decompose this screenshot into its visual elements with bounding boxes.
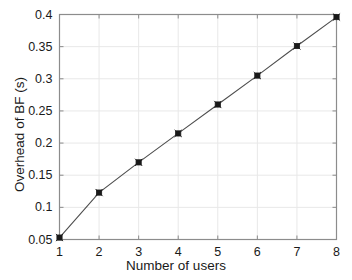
x-tick-label: 4 <box>175 245 182 259</box>
y-tick-label: 0.4 <box>0 8 53 22</box>
y-tick-label: 0.35 <box>0 40 53 54</box>
x-tick-label: 7 <box>293 245 300 259</box>
y-axis-label: Overhead of BF (s) <box>12 55 27 215</box>
x-axis-label: Number of users <box>0 258 352 273</box>
y-tick-label: 0.05 <box>0 233 53 247</box>
x-tick-label: 8 <box>333 245 340 259</box>
x-tick-label: 2 <box>96 245 103 259</box>
series-polyline <box>60 17 337 238</box>
x-tick-label: 6 <box>254 245 261 259</box>
chart-figure: 0.050.10.150.20.250.30.350.4 12345678 Nu… <box>0 0 352 280</box>
x-tick-label: 5 <box>214 245 221 259</box>
x-tick-label: 3 <box>135 245 142 259</box>
data-line-series <box>60 17 337 238</box>
x-tick-label: 1 <box>56 245 63 259</box>
